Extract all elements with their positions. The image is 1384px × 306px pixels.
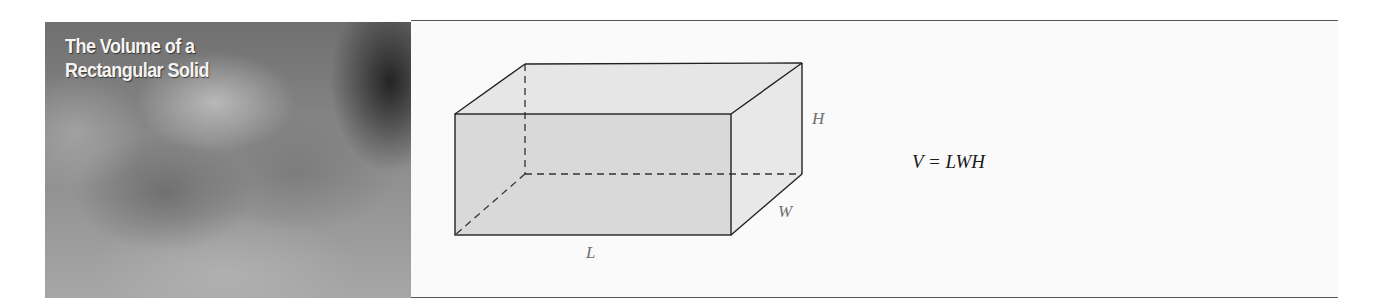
- height-label: H: [812, 110, 824, 127]
- width-label: W: [778, 203, 792, 220]
- section-title: The Volume of a Rectangular Solid: [65, 34, 209, 82]
- front-face: [455, 114, 731, 235]
- rectangular-solid-diagram: [411, 21, 831, 297]
- title-line-2: Rectangular Solid: [65, 59, 209, 81]
- title-panel: The Volume of a Rectangular Solid: [45, 22, 411, 298]
- content-panel: H W L V = LWH: [411, 20, 1338, 298]
- length-label: L: [586, 244, 595, 261]
- title-line-1: The Volume of a: [65, 35, 195, 57]
- volume-formula: V = LWH: [912, 152, 985, 171]
